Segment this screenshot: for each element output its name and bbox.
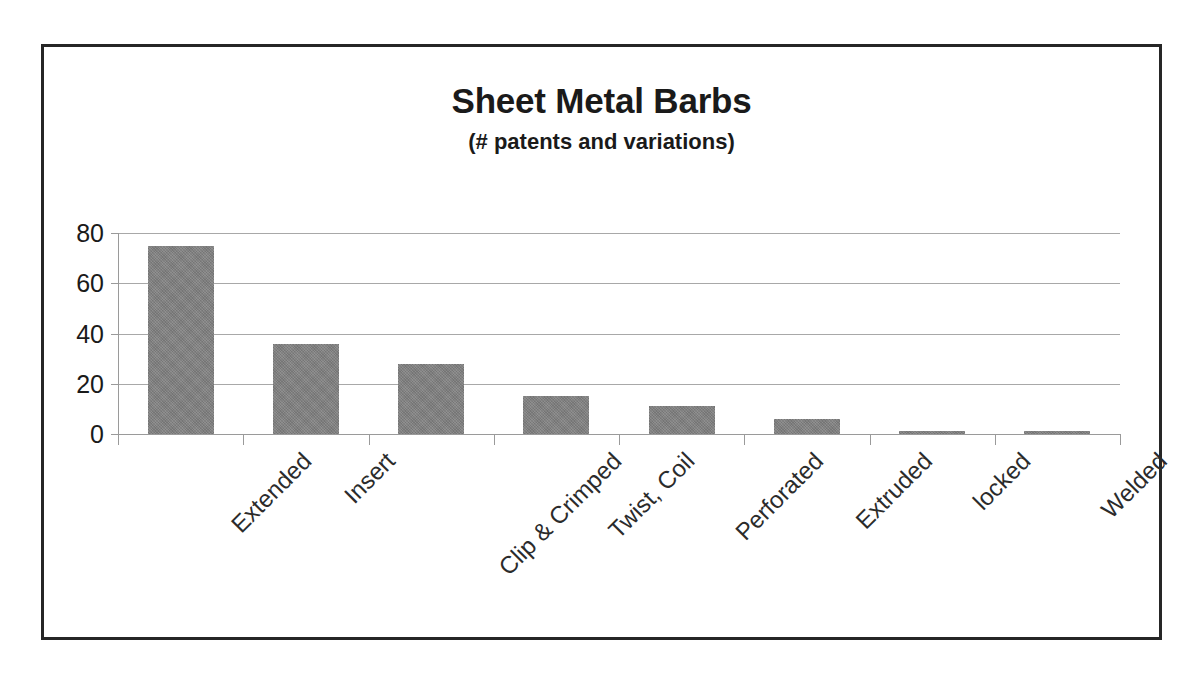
bar-perforated[interactable] bbox=[649, 406, 715, 434]
x-tick bbox=[995, 434, 996, 445]
x-axis-ticks bbox=[118, 434, 1120, 446]
bar-extruded[interactable] bbox=[774, 419, 840, 434]
bar-insert[interactable] bbox=[273, 344, 339, 434]
x-axis-labels: ExtendedInsertClip & CrimpedTwist, CoilP… bbox=[118, 447, 1120, 597]
plot-area: 020406080 ExtendedInsertClip & CrimpedTw… bbox=[118, 233, 1120, 434]
bar-twist-coil[interactable] bbox=[523, 396, 589, 434]
x-tick bbox=[118, 434, 119, 445]
chart-subtitle: (# patents and variations) bbox=[44, 129, 1159, 155]
bar-slot bbox=[243, 233, 368, 434]
x-axis-category-label: Clip & Crimped bbox=[493, 447, 627, 581]
bar-extended[interactable] bbox=[148, 246, 214, 434]
x-axis-category-label: Welded bbox=[1096, 447, 1173, 524]
x-tick bbox=[1120, 434, 1121, 445]
bar-slot bbox=[870, 233, 995, 434]
x-axis-category-label: locked bbox=[967, 447, 1036, 516]
chart-title-block: Sheet Metal Barbs (# patents and variati… bbox=[44, 83, 1159, 155]
x-axis-category-label: Insert bbox=[338, 447, 400, 509]
x-tick bbox=[369, 434, 370, 445]
chart-frame: Sheet Metal Barbs (# patents and variati… bbox=[41, 44, 1162, 640]
y-axis-tick-label: 40 bbox=[76, 319, 104, 348]
bar-slot bbox=[494, 233, 619, 434]
x-tick bbox=[494, 434, 495, 445]
bar-slot bbox=[118, 233, 243, 434]
bar-slot bbox=[995, 233, 1120, 434]
x-axis-category-label: Extruded bbox=[850, 447, 938, 535]
y-axis-tick-label: 60 bbox=[76, 269, 104, 298]
bars-layer bbox=[118, 233, 1120, 434]
bar-slot bbox=[744, 233, 869, 434]
x-axis-category-label: Extended bbox=[225, 447, 317, 539]
y-axis-tick-label: 80 bbox=[76, 219, 104, 248]
page-title: Sheet Metal Barbs bbox=[44, 83, 1159, 120]
bar-slot bbox=[619, 233, 744, 434]
y-axis-tick-label: 20 bbox=[76, 369, 104, 398]
x-tick bbox=[744, 434, 745, 445]
y-axis-tick-label: 0 bbox=[90, 420, 104, 449]
x-tick bbox=[870, 434, 871, 445]
bar-slot bbox=[369, 233, 494, 434]
bar-clip-crimped[interactable] bbox=[398, 364, 464, 434]
x-tick bbox=[619, 434, 620, 445]
x-tick bbox=[243, 434, 244, 445]
x-axis-category-label: Perforated bbox=[729, 447, 828, 546]
